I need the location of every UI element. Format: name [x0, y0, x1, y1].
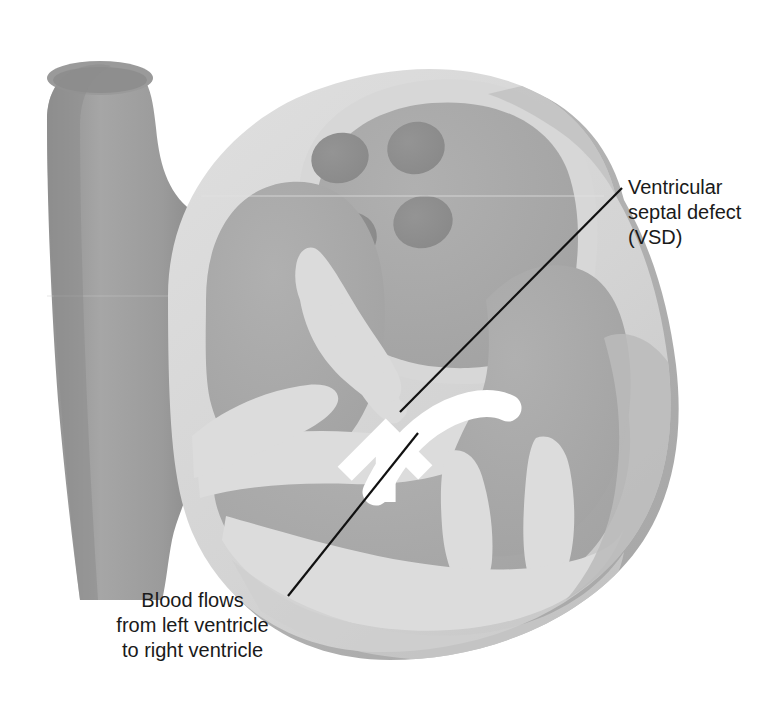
septum-rounded-end [387, 400, 407, 420]
label-ventricular-septal-defect: Ventricular septal defect (VSD) [628, 175, 741, 250]
label-blood-flow: Blood flows from left ventricle to right… [100, 588, 285, 663]
illustration-canvas: Ventricular septal defect (VSD) Blood fl… [0, 0, 784, 705]
